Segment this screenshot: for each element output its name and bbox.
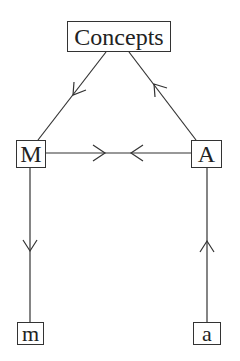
diagram-edges: [0, 0, 240, 361]
node-concepts: Concepts: [67, 21, 171, 52]
edge-A-to-concepts: [129, 52, 196, 140]
node-M-label: M: [20, 142, 41, 166]
node-a: a: [193, 322, 221, 345]
node-a-label: a: [202, 323, 212, 345]
node-M: M: [16, 140, 46, 168]
node-A-label: A: [198, 142, 215, 166]
node-m-label: m: [22, 323, 39, 345]
node-m: m: [17, 322, 44, 345]
node-A: A: [191, 140, 222, 168]
arrowhead-up-left-icon: [154, 84, 167, 97]
edge-concepts-to-M: [38, 52, 106, 140]
node-concepts-label: Concepts: [74, 25, 163, 49]
